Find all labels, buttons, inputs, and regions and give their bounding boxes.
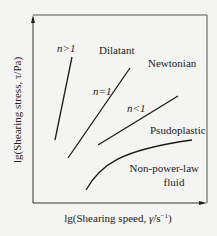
- rheology-diagram: n>1 Dilatant Newtonian n=1 n<1 Psudoplas…: [0, 0, 217, 236]
- x-axis-label: lg(Shearing speed, γ̇/s−1): [64, 212, 172, 225]
- label-dilatant: Dilatant: [99, 44, 134, 56]
- label-pseudoplastic: Psudoplastic: [150, 124, 206, 136]
- label-newtonian: Newtonian: [148, 57, 197, 69]
- label-n-gt-1: n>1: [57, 42, 75, 54]
- dilatant-line: [55, 57, 72, 140]
- label-n-lt-1: n<1: [127, 102, 145, 114]
- label-fluid: fluid: [164, 176, 185, 188]
- y-axis-arrow-icon: [31, 15, 35, 23]
- label-non-power-law: Non-power-law: [130, 162, 199, 174]
- label-n-eq-1: n=1: [93, 85, 111, 97]
- x-axis-arrow-icon: [199, 201, 207, 205]
- y-axis-label: lg(Shearing stress, τ/Pa): [11, 57, 24, 163]
